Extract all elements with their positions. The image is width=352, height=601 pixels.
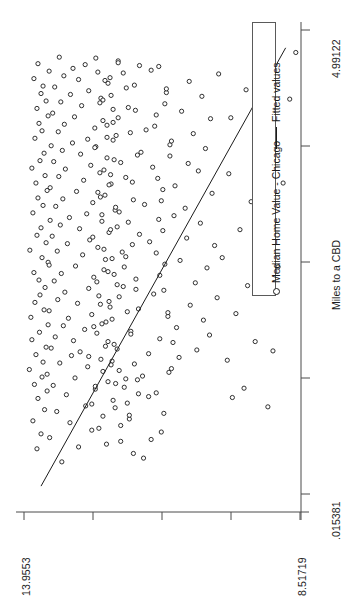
scatter-point	[37, 330, 41, 334]
scatter-point	[122, 385, 126, 389]
scatter-point	[39, 91, 43, 95]
scatter-point	[186, 161, 190, 165]
scatter-point	[45, 188, 49, 192]
scatter-point	[172, 214, 176, 218]
scatter-point	[156, 176, 160, 180]
scatter-point	[294, 50, 298, 54]
scatter-point	[212, 243, 216, 247]
scatter-point	[158, 337, 162, 341]
scatter-point	[154, 251, 158, 255]
scatter-point	[125, 401, 129, 405]
scatter-point	[105, 135, 109, 139]
scatter-point	[93, 126, 97, 130]
scatter-point	[99, 357, 103, 361]
scatter-point	[98, 101, 102, 105]
scatter-point	[59, 100, 63, 104]
scatter-point	[29, 315, 33, 319]
scatter-point	[134, 287, 138, 291]
scatter-point	[97, 426, 101, 430]
scatter-point	[110, 317, 114, 321]
scatter-point	[191, 132, 195, 136]
scatter-point	[229, 116, 233, 120]
scatter-point	[100, 219, 104, 223]
scatter-point	[104, 442, 108, 446]
scatter-point	[107, 183, 111, 187]
scatter-point	[36, 196, 40, 200]
scatter-point	[76, 445, 80, 449]
scatter-point	[33, 300, 37, 304]
scatter-point	[95, 280, 99, 284]
scatter-point	[230, 395, 234, 399]
scatter-point	[42, 151, 46, 155]
scatter-point	[157, 217, 161, 221]
plot-canvas	[0, 0, 352, 601]
scatter-point	[119, 160, 123, 164]
scatter-point	[167, 370, 171, 374]
scatter-point	[220, 256, 224, 260]
scatter-point	[119, 439, 123, 443]
scatter-point	[164, 87, 168, 91]
legend-item-median-home-value: Median Home Value - Chicago	[270, 141, 282, 295]
scatter-point	[58, 361, 62, 365]
scatter-point	[100, 213, 104, 217]
scatter-point	[238, 228, 242, 232]
scatter-point	[112, 342, 116, 346]
scatter-point	[114, 205, 118, 209]
scatter-point	[159, 199, 163, 203]
scatter-point	[148, 240, 152, 244]
legend-item-fitted-values: Fitted values	[270, 62, 282, 149]
scatter-point	[174, 325, 178, 329]
scatter-point	[253, 339, 257, 343]
scatter-point	[102, 268, 106, 272]
scatter-point	[129, 332, 133, 336]
scatter-point	[57, 174, 61, 178]
scatter-point	[58, 223, 62, 227]
scatter-point	[126, 220, 130, 224]
scatter-point	[126, 105, 130, 109]
scatter-point	[40, 256, 44, 260]
scatter-point	[161, 229, 165, 233]
scatter-point	[30, 338, 34, 342]
scatter-point	[61, 197, 65, 201]
scatter-point	[147, 352, 151, 356]
scatter-point	[78, 350, 82, 354]
scatter-point	[75, 301, 79, 305]
scatter-point	[70, 141, 74, 145]
scatter-point	[46, 323, 50, 327]
scatter-point	[48, 218, 52, 222]
scatter-point	[120, 250, 124, 254]
scatter-point	[102, 247, 106, 251]
scatter-point	[153, 124, 157, 128]
open-circle-marker-icon	[273, 288, 280, 295]
scatter-point	[266, 405, 270, 409]
scatter-point	[135, 153, 139, 157]
scatter-point	[144, 128, 148, 132]
scatter-point	[108, 228, 112, 232]
scatter-point	[215, 296, 219, 300]
scatter-point	[86, 137, 90, 141]
scatter-point	[44, 345, 48, 349]
scatter-point	[201, 318, 205, 322]
scatter-point	[68, 421, 72, 425]
scatter-point	[52, 279, 56, 283]
scatter-point	[63, 290, 67, 294]
scatter-point	[140, 374, 144, 378]
scatter-point	[162, 288, 166, 292]
scatter-point	[121, 71, 125, 75]
scatter-point	[41, 203, 45, 207]
scatter-point	[288, 97, 292, 101]
scatter-point	[76, 77, 80, 81]
scatter-point	[87, 354, 91, 358]
scatter-point	[119, 423, 123, 427]
legend: Fitted values Median Home Value - Chicag…	[252, 22, 276, 296]
legend-label-fitted-values: Fitted values	[270, 62, 282, 122]
scatter-point	[101, 118, 105, 122]
scatter-point	[57, 55, 61, 59]
scatter-point	[37, 121, 41, 125]
scatter-point	[39, 432, 43, 436]
scatter-point	[53, 85, 57, 89]
scatter-point	[227, 172, 231, 176]
scatter-point	[56, 298, 60, 302]
scatter-point	[64, 393, 68, 397]
scatter-point	[135, 378, 139, 382]
